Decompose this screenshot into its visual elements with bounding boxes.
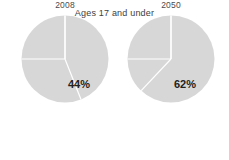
pie-percent-label-2050: 62% xyxy=(174,78,196,90)
pie-year-label-2050: 2050 xyxy=(127,0,215,10)
pie-year-label-2008: 2008 xyxy=(21,0,109,10)
pie-slices-2050 xyxy=(128,16,215,103)
pie-chart-2008 xyxy=(21,13,109,105)
pie-percent-label-2008: 44% xyxy=(68,78,90,90)
pie-chart-2050 xyxy=(127,13,215,105)
pie-chart-figure: Ages 17 and under 2008 2050 44% 62% xyxy=(0,0,229,160)
pie-slices-2008 xyxy=(22,16,109,103)
